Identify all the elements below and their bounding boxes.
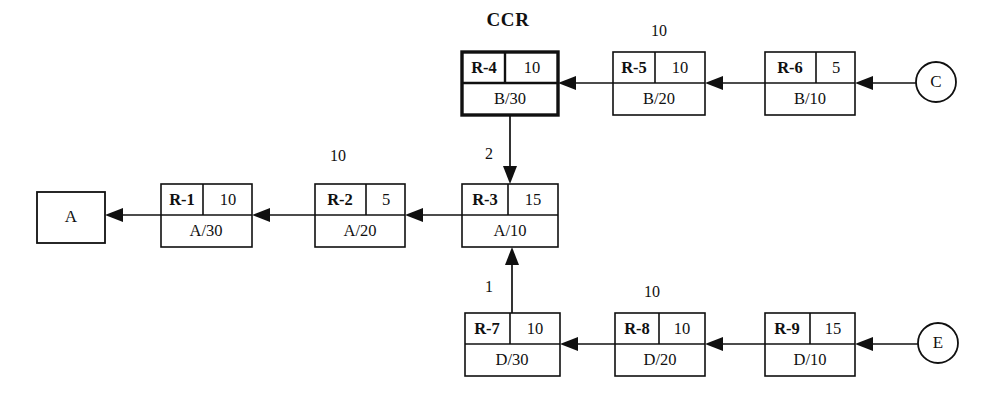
arrow-head-r2-to-r1 xyxy=(252,208,270,222)
operation-box-r3[interactable]: R-3 15 A/10 xyxy=(462,184,558,247)
operation-r1-part: A/30 xyxy=(190,221,223,240)
arrow-head-r9-to-r8 xyxy=(705,337,723,351)
operation-r4-part: B/30 xyxy=(494,89,526,108)
endpoint-c-label: C xyxy=(930,72,941,91)
arrow-head-r1-to-a xyxy=(105,208,123,222)
operation-r3-id: R-3 xyxy=(472,190,498,209)
arrow-head-r4-to-r3 xyxy=(503,166,517,184)
arrow-head-r7-to-r3 xyxy=(505,247,519,265)
operation-box-r9[interactable]: R-9 15 D/10 xyxy=(765,313,855,376)
operation-r6-part: B/10 xyxy=(794,89,826,108)
operation-r4-id: R-4 xyxy=(471,58,497,77)
operation-box-r6[interactable]: R-6 5 B/10 xyxy=(765,52,855,115)
arrow-head-r5-to-r4 xyxy=(558,76,576,90)
operation-r2-part: A/20 xyxy=(344,221,377,240)
operation-r6-id: R-6 xyxy=(777,58,803,77)
operation-r8-qty: 10 xyxy=(674,319,691,338)
operation-r7-qty: 10 xyxy=(527,319,544,338)
arrow-head-e-to-r9 xyxy=(855,337,873,351)
ccr-title-label: CCR xyxy=(487,9,530,30)
operation-r8-id: R-8 xyxy=(624,319,650,338)
endpoint-node-e[interactable]: E xyxy=(918,323,958,363)
endpoint-node-c[interactable]: C xyxy=(916,62,956,102)
operation-r9-id: R-9 xyxy=(774,319,800,338)
edge-label-r7-to-r3: 1 xyxy=(485,278,493,295)
endpoint-e-label: E xyxy=(933,333,943,352)
operation-r9-qty: 15 xyxy=(825,319,842,338)
operation-box-r8[interactable]: R-8 10 D/20 xyxy=(615,313,705,376)
operation-box-r4[interactable]: R-4 10 B/30 xyxy=(462,52,558,115)
arrow-head-c-to-r6 xyxy=(855,76,873,90)
edge-label-above-r5: 10 xyxy=(651,22,667,39)
operation-r8-part: D/20 xyxy=(644,350,677,369)
operation-r2-qty: 5 xyxy=(382,190,390,209)
operation-box-r7[interactable]: R-7 10 D/30 xyxy=(465,313,560,376)
operation-r1-qty: 10 xyxy=(220,190,237,209)
routing-diagram: R-4 10 B/30 R-5 10 B/20 R-6 5 B/10 xyxy=(0,0,986,399)
operation-r6-qty: 5 xyxy=(832,58,840,77)
edge-label-above-r2: 10 xyxy=(330,147,346,164)
operation-r5-id: R-5 xyxy=(621,58,647,77)
edge-label-r4-to-r3: 2 xyxy=(485,145,493,162)
operation-r7-id: R-7 xyxy=(474,319,500,338)
operation-r3-qty: 15 xyxy=(525,190,542,209)
diagram-canvas: R-4 10 B/30 R-5 10 B/20 R-6 5 B/10 xyxy=(0,0,986,399)
endpoint-a-label: A xyxy=(65,207,78,226)
operation-box-r1[interactable]: R-1 10 A/30 xyxy=(161,184,252,247)
operation-box-r2[interactable]: R-2 5 A/20 xyxy=(315,184,405,247)
operation-r9-part: D/10 xyxy=(794,350,827,369)
arrow-head-r3-to-r2 xyxy=(405,208,423,222)
arrow-head-r6-to-r5 xyxy=(705,76,723,90)
operation-r2-id: R-2 xyxy=(327,190,353,209)
operation-r4-qty: 10 xyxy=(524,58,541,77)
operation-r5-part: B/20 xyxy=(643,89,675,108)
arrow-head-r8-to-r7 xyxy=(560,337,578,351)
operation-r7-part: D/30 xyxy=(496,350,529,369)
edge-label-above-r8: 10 xyxy=(644,283,660,300)
endpoint-node-a[interactable]: A xyxy=(37,192,105,243)
operation-box-r5[interactable]: R-5 10 B/20 xyxy=(613,52,705,115)
operation-r3-part: A/10 xyxy=(494,221,527,240)
operation-r5-qty: 10 xyxy=(672,58,689,77)
operation-r1-id: R-1 xyxy=(169,190,195,209)
